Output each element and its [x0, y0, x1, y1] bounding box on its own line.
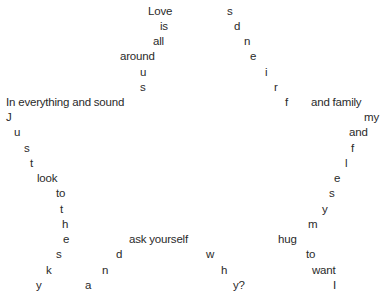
- poem-word: f: [351, 142, 354, 155]
- poem-word: d: [234, 20, 240, 33]
- poem-word: all: [153, 35, 164, 48]
- poem-word: i: [265, 66, 267, 79]
- poem-word: s: [329, 187, 335, 200]
- poem-word: r: [274, 81, 278, 94]
- poem-word: d: [116, 248, 122, 261]
- poem-word: s: [56, 248, 62, 261]
- poem-word: n: [244, 35, 250, 48]
- poem-word: e: [250, 50, 256, 63]
- poem-word: m: [308, 218, 317, 231]
- poem-word: I: [333, 279, 336, 292]
- poem-word: hug: [278, 233, 297, 246]
- poem-word: around: [120, 50, 155, 63]
- poem-word: to: [56, 187, 65, 200]
- poem-word: to: [306, 248, 315, 261]
- poem-word: t: [30, 157, 33, 170]
- poem-word: s: [140, 81, 146, 94]
- shape-poem: LoveisallaroundusIn everything and sound…: [0, 0, 385, 302]
- poem-word: s: [227, 5, 233, 18]
- poem-word: h: [62, 218, 68, 231]
- poem-word: w: [206, 248, 214, 261]
- poem-word: s: [24, 142, 30, 155]
- poem-word: want: [312, 264, 336, 277]
- poem-word: is: [160, 20, 168, 33]
- poem-word: ask yourself: [129, 233, 188, 246]
- poem-word: u: [140, 66, 146, 79]
- poem-word: u: [14, 126, 20, 139]
- poem-word: Love: [148, 5, 172, 18]
- poem-word: and family: [311, 96, 361, 109]
- poem-word: h: [221, 264, 227, 277]
- poem-word: e: [334, 172, 340, 185]
- poem-word: y: [36, 279, 42, 292]
- poem-word: f: [285, 96, 288, 109]
- poem-word: my: [364, 111, 379, 124]
- poem-word: y?: [233, 279, 245, 292]
- poem-word: k: [46, 264, 52, 277]
- poem-word: and: [349, 126, 368, 139]
- poem-word: n: [102, 264, 108, 277]
- poem-word: t: [60, 203, 63, 216]
- poem-word: y: [322, 203, 328, 216]
- poem-word: In everything and sound: [6, 96, 124, 109]
- poem-word: l: [345, 157, 347, 170]
- poem-word: e: [63, 233, 69, 246]
- poem-word: look: [37, 172, 57, 185]
- poem-word: J: [6, 111, 12, 124]
- poem-word: a: [85, 279, 91, 292]
